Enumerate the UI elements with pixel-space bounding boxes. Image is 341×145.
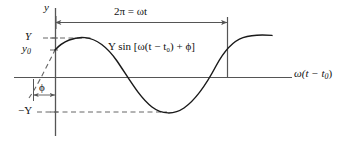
initial-value-subscript: 0 (27, 47, 31, 56)
x-axis-label: ω(t − t0) (294, 68, 332, 81)
x-axis-base: ω(t − t (294, 67, 324, 79)
period-label: 2π = ωt (114, 6, 147, 17)
y-axis-label: y (44, 2, 49, 13)
equation-label: Y sin [ω(t − t₀) + ϕ] (108, 41, 195, 52)
x-axis-tail: ) (328, 67, 332, 79)
amplitude-negative-label: −Y (18, 105, 32, 116)
phase-label: ϕ (39, 82, 45, 93)
initial-value-label: y0 (22, 43, 31, 56)
sine-wave-figure: y 2π = ωt Y y0 Y sin [ω(t − t₀) + ϕ] ω(t… (0, 0, 341, 145)
amplitude-positive-label: Y (25, 31, 31, 42)
figure-canvas (0, 0, 341, 145)
